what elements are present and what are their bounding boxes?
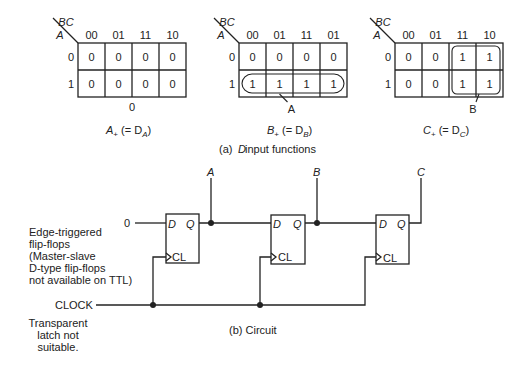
note-edge-triggered: Edge-triggered flip-flops (Master-slave … [29,226,132,286]
kmap-col-header: 11 [457,29,468,41]
kmap-cell: 1 [303,78,309,90]
kmap-cell: 0 [115,78,121,90]
caption-a-rest: input functions [245,143,316,155]
kmap-row-header: 1 [385,78,391,90]
kmap-cell: 1 [486,78,492,90]
kmap-col-header: 11 [140,29,151,41]
kmap-cell: 0 [405,51,411,63]
kmap-cell: 0 [432,51,438,63]
kmap-col-header: 10 [483,29,495,41]
junction-dot-a [208,220,214,226]
junction-dot-b [314,220,320,226]
kmap-row-header: 0 [229,51,235,63]
clock-triangle-b [271,253,276,261]
kmap-cell: 0 [169,78,175,90]
kmap-col-header: 00 [246,29,258,41]
ff-c-d: D [379,218,387,230]
ff-c-cl: CL [383,252,397,264]
kmap-cell: 0 [88,78,94,90]
circuit [96,178,421,305]
kmap-cell: 0 [115,51,121,63]
kmap-cell: 1 [276,78,282,90]
kmap-col-header: 11 [301,29,312,41]
kmap-col-header: 01 [112,29,124,41]
kmap-cell: 0 [169,51,175,63]
kmap-title: B+ (= DB) [267,124,312,139]
ff-c-q: Q [397,218,406,230]
kmap-col-header: 10 [166,29,178,41]
kmap-cell: 0 [88,51,94,63]
kmap-2: BCA000111010100001111AB+ (= DB) [214,16,347,139]
kmap-var-row: A [55,29,63,41]
clock-wire-b [260,257,271,305]
kmap-cell: 1 [486,51,492,63]
kmap-1: BCA0001111001000000000A+ (= DA) [53,16,186,139]
kmap-col-header: 00 [402,29,414,41]
kmap-row-header: 1 [68,78,74,90]
kmap-col-header: 01 [327,29,339,41]
kmap-cell: 1 [330,78,336,90]
svg-text:not available on TTL): not available on TTL) [29,274,132,286]
kmap-group-label: 0 [129,101,135,113]
kmap-col-header: 00 [85,29,97,41]
kmap-cell: 0 [405,78,411,90]
clock-wire-a [153,257,166,305]
kmap-cell: 0 [249,51,255,63]
kmap-var-col: BC [58,16,73,28]
ff-a-q: Q [186,218,195,230]
kmap-cell: 1 [459,78,465,90]
kmap-3: BCA000111100100110011BC+ (= DC) [370,16,503,139]
svg-text:(Master-slave: (Master-slave [29,250,96,262]
kmap-group-label: A [288,103,296,115]
kmap-var-col: BC [219,16,234,28]
clock-triangle-c [376,253,381,261]
kmap-cell: 1 [459,51,465,63]
kmap-title: C+ (= DC) [423,124,469,139]
kmap-var-col: BC [375,16,390,28]
output-a-label: A [206,166,214,178]
kmap-group-pointer [280,94,288,102]
ff-a-d: D [168,218,176,230]
input-zero-label: 0 [124,217,130,229]
kmap-row-header: 0 [385,51,391,63]
ff-a-cl: CL [172,251,186,263]
kmap-cell: 0 [432,78,438,90]
svg-text:suitable.: suitable. [38,341,79,353]
svg-text:latch not: latch not [37,329,79,341]
svg-text:Edge-triggered: Edge-triggered [29,226,102,238]
kmap-cell: 0 [142,78,148,90]
kmap-title: A+ (= DA) [105,124,151,139]
ff-b-d: D [273,218,281,230]
output-c-label: C [417,166,425,178]
ff-b-cl: CL [278,251,292,263]
caption-b: (b) Circuit [229,324,277,336]
kmap-cell: 0 [142,51,148,63]
ff-b-q: Q [293,218,302,230]
wire-output-c [409,178,421,223]
svg-text:flip-flops: flip-flops [29,238,70,250]
caption-a-prefix: (a) [219,143,232,155]
output-b-label: B [313,166,320,178]
junction-dot-clock-a [150,302,156,308]
kmap-cell: 0 [330,51,336,63]
diagram-canvas: BCA0001111001000000000A+ (= DA)BCA000111… [0,0,526,368]
note-transparent-latch: Transparent latch not suitable. [29,317,88,353]
kmap-var-row: A [216,29,224,41]
kmap-cell: 0 [303,51,309,63]
kmap-var-row: A [372,29,380,41]
clock-label: CLOCK [55,299,94,311]
svg-text:Transparent: Transparent [29,317,88,329]
junction-dot-clock-b [257,302,263,308]
kmap-row-header: 0 [68,51,74,63]
kmap-col-header: 01 [273,29,285,41]
kmap-group-label: B [469,103,476,115]
kmap-cell: 0 [276,51,282,63]
kmap-row-header: 1 [229,78,235,90]
svg-text:D-type flip-flops: D-type flip-flops [29,262,106,274]
kmap-cell: 1 [249,78,255,90]
kmap-col-header: 01 [429,29,441,41]
clock-triangle-a [166,253,171,261]
